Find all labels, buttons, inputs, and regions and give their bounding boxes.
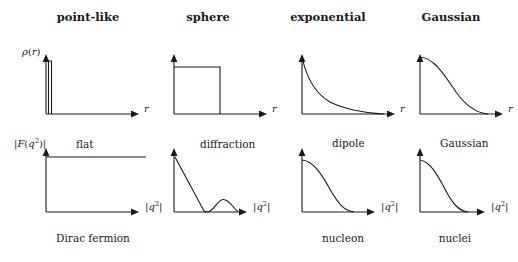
panel-label-diffraction: diffraction bbox=[200, 138, 255, 150]
column-header-gaussian: Gaussian bbox=[396, 10, 506, 24]
x-axis-label-r-1: r bbox=[144, 103, 149, 114]
x-axis-label-q2-1: |q2| bbox=[145, 200, 162, 212]
y-axis-label-density: ρ(r) bbox=[22, 46, 40, 57]
x-axis-label-r-4: r bbox=[508, 103, 513, 114]
column-header-exponential: exponential bbox=[268, 10, 388, 24]
x-axis-label-r-2: r bbox=[272, 103, 277, 114]
x-axis-label-q2-4: |q2| bbox=[491, 200, 508, 212]
panel-label-dipole: dipole bbox=[332, 137, 365, 149]
caption-nuclei: nuclei bbox=[400, 232, 510, 244]
column-header-point-like: point-like bbox=[28, 10, 148, 24]
panel-dipole-form-factor: dipole |q2| bbox=[296, 144, 411, 216]
caption-dirac-fermion: Dirac fermion bbox=[28, 232, 158, 244]
panel-label-flat: flat bbox=[76, 138, 93, 150]
x-axis-label-r-3: r bbox=[400, 103, 405, 114]
panel-gaussian-form-factor: Gaussian |q2| bbox=[414, 144, 514, 216]
panel-gaussian-density: r bbox=[414, 52, 518, 118]
panel-exponential-density: r bbox=[296, 52, 406, 118]
panel-label-gaussian: Gaussian bbox=[440, 137, 489, 149]
panel-flat-form-factor: flat |q2| bbox=[40, 144, 155, 216]
x-axis-label-q2-2: |q2| bbox=[253, 200, 270, 212]
caption-nucleon: nucleon bbox=[288, 232, 398, 244]
panel-sphere-density: r bbox=[168, 52, 278, 118]
x-axis-label-q2-3: |q2| bbox=[381, 200, 398, 212]
column-header-sphere: sphere bbox=[158, 10, 258, 24]
panel-diffraction-form-factor: diffraction |q2| bbox=[168, 144, 283, 216]
panel-point-like-density: r bbox=[40, 52, 150, 118]
